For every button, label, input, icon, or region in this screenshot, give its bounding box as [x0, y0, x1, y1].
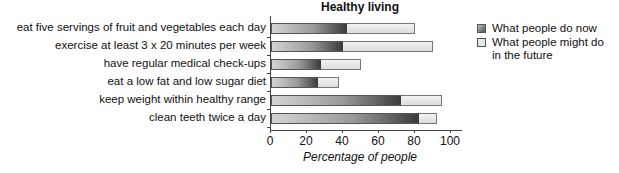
y-axis-tick [267, 73, 270, 74]
category-label: exercise at least 3 x 20 minutes per wee… [55, 39, 266, 51]
x-axis-tick-label: 0 [255, 134, 285, 148]
legend-item-future: What people might do in the future [477, 36, 604, 62]
category-label: clean teeth twice a day [149, 111, 266, 123]
legend-swatch-now-icon [477, 24, 486, 33]
bar-now [271, 59, 321, 70]
x-axis-tick [378, 130, 379, 133]
category-label: eat five servings of fruit and vegetable… [17, 21, 266, 33]
x-axis-tick-label: 100 [435, 134, 465, 148]
chart-legend: What people do now What people might do … [477, 22, 604, 63]
x-axis-label: Percentage of people [270, 150, 450, 164]
bar-now [271, 23, 347, 34]
y-axis-tick [267, 127, 270, 128]
x-axis-tick [342, 130, 343, 133]
bar-now [271, 113, 419, 124]
x-axis-tick-label: 20 [291, 134, 321, 148]
x-axis-tick-label: 80 [399, 134, 429, 148]
bar-now [271, 95, 401, 106]
bar-now [271, 77, 318, 88]
x-axis-tick-label: 60 [363, 134, 393, 148]
x-axis-tick [414, 130, 415, 133]
y-axis-tick [267, 91, 270, 92]
x-axis-line [270, 130, 462, 131]
y-axis-tick [267, 109, 270, 110]
legend-swatch-future-icon [477, 38, 486, 47]
x-axis-tick-label: 40 [327, 134, 357, 148]
legend-item-now: What people do now [477, 22, 604, 35]
legend-label-future-line2: in the future [492, 49, 553, 61]
category-label: keep weight within healthy range [99, 93, 266, 105]
x-axis-tick [306, 130, 307, 133]
category-label: have regular medical check-ups [104, 57, 266, 69]
bar-now [271, 41, 343, 52]
y-axis-tick [267, 55, 270, 56]
legend-label-future-line1: What people might do [492, 36, 604, 48]
y-axis-tick [267, 37, 270, 38]
chart-title: Healthy living [270, 0, 450, 14]
legend-label-now: What people do now [492, 22, 597, 34]
x-axis-tick [450, 130, 451, 133]
category-label: eat a low fat and low sugar diet [107, 75, 266, 87]
x-axis-tick [270, 130, 271, 133]
